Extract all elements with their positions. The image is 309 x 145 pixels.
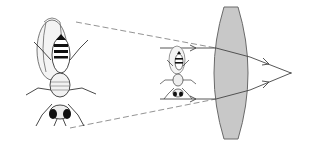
small-fly-illustration (160, 46, 196, 99)
dashed-sight-lines (70, 22, 216, 128)
converging-lens (214, 7, 248, 139)
large-fly-illustration (26, 18, 96, 126)
focal-point (290, 72, 292, 74)
optics-diagram (0, 0, 309, 145)
